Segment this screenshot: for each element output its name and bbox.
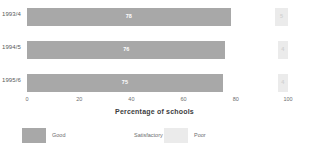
category-label-1993-4: 1993/4 xyxy=(2,11,26,17)
x-tick-40: 40 xyxy=(128,96,134,102)
bar-value-poor-1993-4: 5 xyxy=(280,14,283,20)
x-tick-20: 20 xyxy=(76,96,82,102)
legend-label-satisfactory: Satisfactory xyxy=(134,132,163,138)
x-tick-0: 0 xyxy=(25,96,28,102)
chart-legend: Good Satisfactory Poor xyxy=(0,127,309,149)
chart-row: 1995/6 75 4 xyxy=(0,74,309,92)
bar-segment-satisfactory-1993-4 xyxy=(231,8,275,26)
x-tick-100: 100 xyxy=(283,96,292,102)
x-tick-80: 80 xyxy=(233,96,239,102)
bar-value-good-1993-4: 78 xyxy=(126,14,132,20)
legend-swatch-poor-icon xyxy=(164,128,188,143)
category-label-1995-6: 1995/6 xyxy=(2,77,26,83)
stacked-bar-chart: 1993/4 78 5 1994/5 76 4 1995/6 75 4 0 xyxy=(0,0,309,154)
bar-segment-good-1994-5: 76 xyxy=(27,41,225,59)
bar-value-poor-1995-6: 4 xyxy=(281,80,284,86)
bar-segment-poor-1995-6: 4 xyxy=(278,74,288,92)
bar-segment-good-1995-6: 75 xyxy=(27,74,223,92)
bar-segment-satisfactory-1995-6 xyxy=(223,74,278,92)
chart-row: 1993/4 78 5 xyxy=(0,8,309,26)
chart-row: 1994/5 76 4 xyxy=(0,41,309,59)
x-tick-60: 60 xyxy=(181,96,187,102)
bar-value-poor-1994-5: 4 xyxy=(281,47,284,53)
legend-label-poor: Poor xyxy=(194,132,206,138)
legend-label-good: Good xyxy=(52,132,65,138)
bar-value-good-1995-6: 75 xyxy=(122,80,128,86)
legend-swatch-satisfactory-icon xyxy=(104,128,128,143)
legend-swatch-good-icon xyxy=(22,128,46,143)
bar-segment-satisfactory-1994-5 xyxy=(225,41,277,59)
bar-segment-good-1993-4: 78 xyxy=(27,8,231,26)
category-label-1994-5: 1994/5 xyxy=(2,44,26,50)
x-axis-title: Percentage of schools xyxy=(0,108,309,115)
bar-segment-poor-1994-5: 4 xyxy=(278,41,288,59)
bar-segment-poor-1993-4: 5 xyxy=(275,8,288,26)
bar-value-good-1994-5: 76 xyxy=(123,47,129,53)
